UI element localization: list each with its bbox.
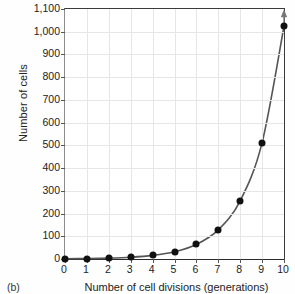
y-tick-label: 1,000 — [14, 26, 60, 36]
x-tick-label: 7 — [214, 263, 220, 275]
data-point — [171, 248, 178, 255]
data-point — [62, 255, 69, 262]
y-tick-label: 200 — [14, 208, 60, 218]
x-tick-label: 8 — [236, 263, 242, 275]
data-point — [83, 255, 90, 262]
y-tick-mark — [61, 191, 65, 192]
x-tick-label: 6 — [192, 263, 198, 275]
y-tick-label: 500 — [14, 139, 60, 149]
y-tick-label: 0 — [14, 253, 60, 263]
x-axis-tick-labels: 012345678910 — [64, 263, 285, 277]
y-tick-mark — [61, 145, 65, 146]
data-point — [259, 139, 266, 146]
data-point — [237, 197, 244, 204]
gridline-vertical — [109, 9, 110, 259]
y-tick-mark — [61, 32, 65, 33]
data-point — [193, 241, 200, 248]
gridline-vertical — [131, 9, 132, 259]
gridline-vertical — [175, 9, 176, 259]
arrowhead-icon — [281, 9, 287, 17]
x-tick-label: 10 — [277, 263, 289, 275]
y-tick-label: 300 — [14, 185, 60, 195]
x-tick-label: 5 — [171, 263, 177, 275]
figure-panel: Number of cells 010020030040050060070080… — [0, 0, 295, 294]
plot-area — [64, 8, 285, 260]
x-axis-title: Number of cell divisions (generations) — [64, 281, 289, 293]
y-tick-mark — [61, 168, 65, 169]
y-tick-label: 800 — [14, 71, 60, 81]
x-tick-label: 2 — [105, 263, 111, 275]
y-tick-mark — [61, 77, 65, 78]
y-tick-label: 900 — [14, 48, 60, 58]
x-tick-label: 0 — [61, 263, 67, 275]
y-tick-label: 100 — [14, 230, 60, 240]
y-tick-label: 400 — [14, 162, 60, 172]
x-tick-label: 9 — [258, 263, 264, 275]
y-axis-tick-labels: 01002003004005006007008009001,0001,100 — [14, 8, 60, 260]
data-point — [127, 254, 134, 261]
y-tick-mark — [61, 123, 65, 124]
y-tick-mark — [61, 9, 65, 10]
gridline-vertical — [218, 9, 219, 259]
gridline-vertical — [87, 9, 88, 259]
data-point — [281, 23, 288, 30]
gridline-vertical — [240, 9, 241, 259]
y-tick-mark — [61, 54, 65, 55]
data-point — [215, 226, 222, 233]
data-point — [149, 252, 156, 259]
y-tick-mark — [61, 100, 65, 101]
gridline-vertical — [196, 9, 197, 259]
x-tick-label: 3 — [127, 263, 133, 275]
y-tick-mark — [61, 236, 65, 237]
y-tick-mark — [61, 214, 65, 215]
panel-caption: (b) — [7, 281, 20, 293]
y-tick-label: 600 — [14, 117, 60, 127]
y-tick-label: 1,100 — [14, 3, 60, 13]
y-tick-label: 700 — [14, 94, 60, 104]
gridline-vertical — [262, 9, 263, 259]
gridline-vertical — [153, 9, 154, 259]
data-point — [105, 255, 112, 262]
x-tick-label: 4 — [149, 263, 155, 275]
x-tick-label: 1 — [83, 263, 89, 275]
